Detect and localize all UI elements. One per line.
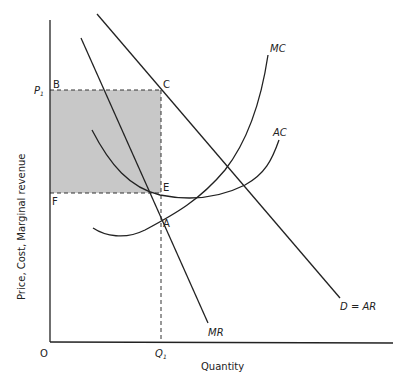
mc-label: MC (270, 43, 286, 54)
x-axis-label: Quantity (201, 361, 244, 372)
demand-label: D = AR (340, 301, 376, 312)
monopoly-diagram: P1 B C E F A MC AC MR D = AR O Q1 Quanti… (0, 0, 409, 392)
point-b-label: B (53, 79, 60, 90)
p1-label: P1 (34, 85, 44, 97)
point-f-label: F (52, 196, 58, 207)
y-axis-label: Price, Cost, Marginal revenue (16, 153, 27, 300)
x-axis (50, 342, 393, 343)
origin-label: O (40, 348, 48, 359)
ac-label: AC (272, 127, 287, 138)
profit-area (50, 90, 161, 193)
mr-label: MR (208, 327, 224, 338)
point-e-label: E (163, 182, 169, 193)
point-a-label: A (163, 218, 170, 229)
point-c-label: C (163, 79, 170, 90)
q1-label: Q1 (155, 348, 167, 360)
